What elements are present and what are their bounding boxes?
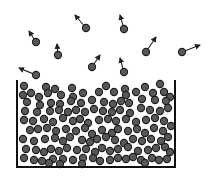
liquid-molecule (77, 99, 84, 106)
liquid-molecule (124, 127, 131, 134)
liquid-molecule (164, 133, 171, 140)
liquid-molecule (134, 147, 141, 154)
liquid-molecule (19, 135, 26, 142)
vapor-molecule (32, 71, 39, 78)
escaping-molecule (142, 37, 156, 56)
liquid-molecule (23, 98, 30, 105)
liquid-molecule (116, 106, 123, 113)
liquid-molecule (49, 118, 56, 125)
liquid-molecule (106, 156, 113, 163)
liquid-molecule (47, 99, 54, 106)
liquid-molecule (122, 91, 129, 98)
liquid-molecule (89, 154, 96, 161)
vapor-molecule (82, 24, 89, 31)
liquid-molecule (149, 89, 156, 96)
liquid-molecule (78, 136, 85, 143)
liquid-molecule (59, 114, 66, 121)
liquid-molecule (138, 95, 145, 102)
liquid-molecules (19, 80, 174, 167)
velocity-arrow-icon (94, 55, 100, 64)
liquid-molecule (163, 155, 170, 162)
liquid-molecule (33, 108, 40, 115)
liquid-molecule (117, 97, 124, 104)
liquid-molecule (146, 106, 153, 113)
evaporation-diagram (0, 0, 214, 176)
liquid-molecule (20, 154, 27, 161)
liquid-molecule (41, 135, 48, 142)
velocity-arrow-icon (120, 58, 123, 69)
liquid-molecule (129, 153, 136, 160)
liquid-molecule (69, 117, 76, 124)
liquid-molecule (21, 107, 28, 114)
liquid-molecule (51, 85, 58, 92)
vapor-molecule (120, 25, 127, 32)
escaping-molecule (19, 68, 40, 79)
escaping-molecule (75, 15, 90, 32)
liquid-molecule (59, 137, 66, 144)
liquid-molecule (43, 124, 50, 131)
liquid-molecule (82, 145, 89, 152)
liquid-molecule (138, 137, 145, 144)
velocity-arrow-icon (57, 44, 58, 51)
vapor-molecule (120, 68, 127, 75)
liquid-molecule (62, 125, 69, 132)
escaping-molecule (88, 55, 100, 71)
liquid-molecule (22, 145, 29, 152)
liquid-molecule (150, 124, 157, 131)
liquid-molecule (156, 80, 163, 87)
vapor-molecule (178, 48, 185, 55)
liquid-molecule (68, 84, 75, 91)
liquid-molecule (114, 154, 121, 161)
escaping-molecule (120, 58, 128, 76)
liquid-molecule (142, 116, 149, 123)
liquid-molecule (46, 107, 53, 114)
liquid-molecule (98, 144, 105, 151)
liquid-molecule (29, 117, 36, 124)
liquid-molecule (110, 88, 117, 95)
liquid-molecule (114, 145, 121, 152)
liquid-molecule (76, 115, 83, 122)
liquid-molecule (40, 115, 47, 122)
liquid-molecule (55, 147, 62, 154)
liquid-molecule (90, 105, 97, 112)
liquid-molecule (106, 147, 113, 154)
liquid-molecule (124, 143, 131, 150)
liquid-molecule (102, 133, 109, 140)
escaping-molecules (19, 15, 200, 79)
liquid-molecule (93, 135, 100, 142)
liquid-molecule (55, 106, 62, 113)
liquid-molecule (47, 145, 54, 152)
liquid-molecule (144, 146, 151, 153)
liquid-molecule (67, 97, 74, 104)
liquid-molecule (81, 124, 88, 131)
liquid-molecule (45, 159, 52, 166)
liquid-molecule (112, 117, 119, 124)
liquid-molecule (73, 146, 80, 153)
liquid-molecule (98, 126, 105, 133)
liquid-molecule (114, 125, 121, 132)
liquid-molecule (137, 104, 144, 111)
liquid-molecule (57, 91, 64, 98)
liquid-molecule (159, 127, 166, 134)
liquid-molecule (19, 91, 26, 98)
liquid-molecule (164, 104, 171, 111)
liquid-molecule (152, 144, 159, 151)
liquid-molecule (133, 125, 140, 132)
velocity-arrow-icon (29, 31, 34, 39)
velocity-arrow-icon (148, 37, 156, 49)
liquid-molecule (132, 118, 139, 125)
liquid-molecule (79, 89, 86, 96)
liquid-molecule (88, 96, 95, 103)
liquid-molecule (141, 129, 148, 136)
liquid-molecule (122, 115, 129, 122)
liquid-molecule (166, 148, 173, 155)
liquid-molecule (81, 108, 88, 115)
escaping-molecule (54, 44, 61, 59)
liquid-molecule (99, 107, 106, 114)
liquid-molecule (151, 96, 158, 103)
liquid-molecule (109, 100, 116, 107)
liquid-molecule (122, 155, 129, 162)
liquid-molecule (125, 99, 132, 106)
liquid-molecule (64, 108, 71, 115)
liquid-molecule (155, 156, 162, 163)
